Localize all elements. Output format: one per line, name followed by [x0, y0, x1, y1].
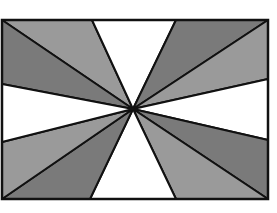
- radial-wedge-diagram: [0, 0, 277, 213]
- wedge-figure-svg: [0, 0, 277, 213]
